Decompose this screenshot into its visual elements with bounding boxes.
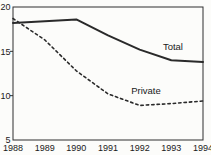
line-chart: 51015201988198919901991199219931994Total… (0, 0, 211, 155)
x-axis-tick-label: 1994 (193, 143, 211, 153)
figure-background (0, 0, 211, 155)
y-axis-tick-label: 15 (0, 47, 10, 57)
y-axis-tick-label: 20 (0, 2, 10, 12)
y-axis-tick-label: 10 (0, 91, 10, 101)
x-axis-tick-label: 1988 (3, 143, 23, 153)
x-axis-tick-label: 1991 (98, 143, 118, 153)
x-axis-tick-label: 1993 (161, 143, 181, 153)
series-label-private: Private (131, 85, 161, 96)
x-axis-tick-label: 1989 (35, 143, 55, 153)
x-axis-tick-label: 1992 (130, 143, 150, 153)
x-axis-tick-label: 1990 (66, 143, 86, 153)
line-chart-figure: 51015201988198919901991199219931994Total… (0, 0, 211, 155)
series-label-total: Total (163, 41, 183, 52)
